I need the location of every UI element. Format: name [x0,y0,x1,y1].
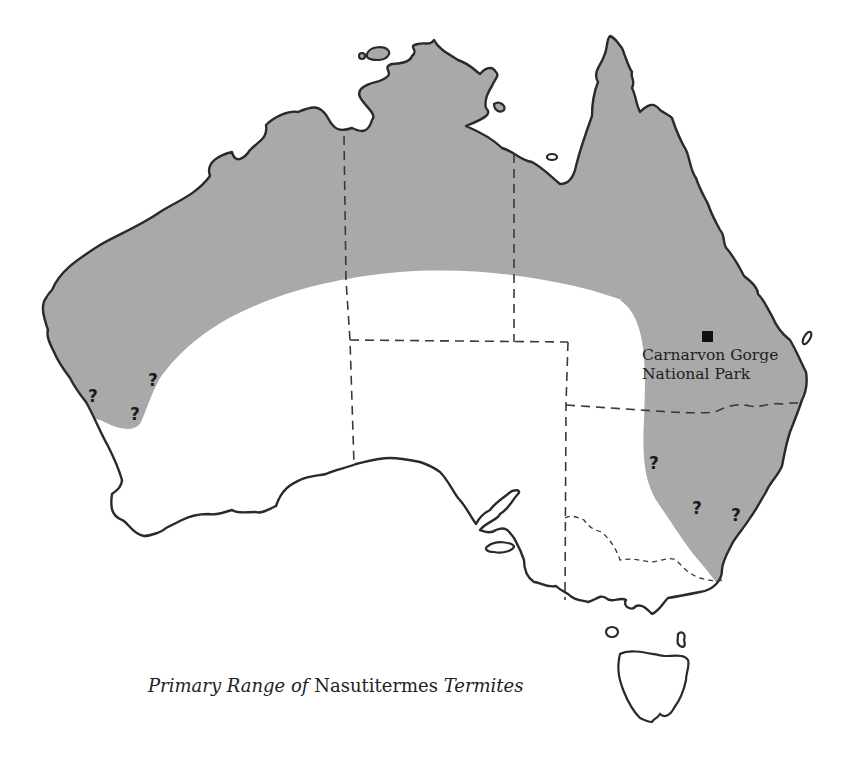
uncertain-range-marker: ? [148,372,158,389]
australia-map [0,0,860,768]
melville-island [367,47,390,60]
bathurst-islet [359,53,365,59]
caption-genus: Nasutitermes [308,675,443,696]
park-label: Carnarvon Gorge National Park [642,346,778,384]
king-island [606,627,618,637]
park-label-line1: Carnarvon Gorge [642,346,778,365]
tasmania [618,651,688,722]
park-location-marker-icon [702,331,713,342]
park-label-line2: National Park [642,365,778,384]
uncertain-range-marker: ? [130,406,140,423]
flinders-island [678,632,685,646]
caption-of: of [291,675,309,696]
uncertain-range-marker: ? [731,507,741,524]
caption-primary-range: Primary Range [148,675,291,696]
kangaroo-island [486,542,514,552]
caption-termites: Termites [444,675,524,696]
uncertain-range-marker: ? [88,388,98,405]
mornington-island [547,154,557,160]
uncertain-range-marker: ? [649,455,659,472]
fraser-island [801,330,813,345]
groote-eylandt [494,103,504,112]
map-caption: Primary Range of Nasutitermes Termites [148,675,524,696]
uncertain-range-marker: ? [692,500,702,517]
